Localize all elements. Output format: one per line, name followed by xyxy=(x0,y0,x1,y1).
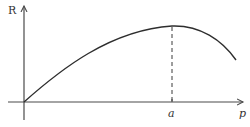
x-axis-label: p xyxy=(239,107,246,120)
x-marker-label: a xyxy=(168,107,175,120)
y-axis-label: R xyxy=(8,4,17,17)
r-curve-line xyxy=(24,26,236,102)
revenue-curve-chart: R a p xyxy=(0,0,250,127)
